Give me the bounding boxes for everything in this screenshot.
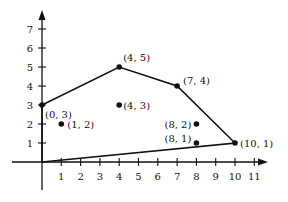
x-tick-label: 11 — [248, 171, 261, 182]
x-tick-label: 8 — [193, 171, 199, 182]
data-point — [116, 102, 122, 108]
data-point — [174, 83, 180, 89]
data-points: (0, 3)(1, 2)(4, 5)(4, 3)(7, 4)(8, 2)(8, … — [39, 52, 273, 149]
point-label: (4, 5) — [123, 52, 150, 63]
x-tick-label: 7 — [174, 171, 180, 182]
x-tick-label: 9 — [213, 171, 219, 182]
x-axis-arrow-icon — [258, 159, 268, 166]
y-ticks: 1234567 — [27, 24, 46, 149]
data-point — [194, 121, 200, 127]
y-tick-label: 5 — [27, 62, 33, 73]
data-point — [194, 140, 200, 146]
y-tick-label: 7 — [27, 24, 33, 35]
x-tick-label: 1 — [58, 171, 64, 182]
point-label: (8, 2) — [165, 119, 192, 130]
point-label: (7, 4) — [183, 75, 210, 86]
y-axis-arrow-icon — [39, 10, 46, 20]
x-tick-label: 4 — [116, 171, 122, 182]
x-tick-label: 2 — [77, 171, 83, 182]
point-label: (10, 1) — [240, 138, 273, 149]
point-label: (8, 1) — [165, 133, 192, 144]
y-tick-label: 1 — [27, 138, 33, 149]
data-point — [232, 140, 238, 146]
data-point — [59, 121, 65, 127]
y-tick-label: 6 — [27, 43, 33, 54]
x-tick-label: 3 — [97, 171, 103, 182]
point-label: (1, 2) — [67, 119, 94, 130]
y-tick-label: 2 — [27, 119, 33, 130]
y-tick-label: 3 — [27, 100, 33, 111]
data-point — [116, 64, 122, 70]
scatter-plot-convex-hull: 1234567891011 1234567 (0, 3)(1, 2)(4, 5)… — [0, 0, 288, 202]
y-tick-label: 4 — [27, 81, 33, 92]
x-tick-label: 6 — [155, 171, 161, 182]
x-tick-label: 10 — [229, 171, 242, 182]
point-label: (4, 3) — [123, 100, 150, 111]
x-tick-label: 5 — [135, 171, 141, 182]
data-point — [39, 102, 45, 108]
